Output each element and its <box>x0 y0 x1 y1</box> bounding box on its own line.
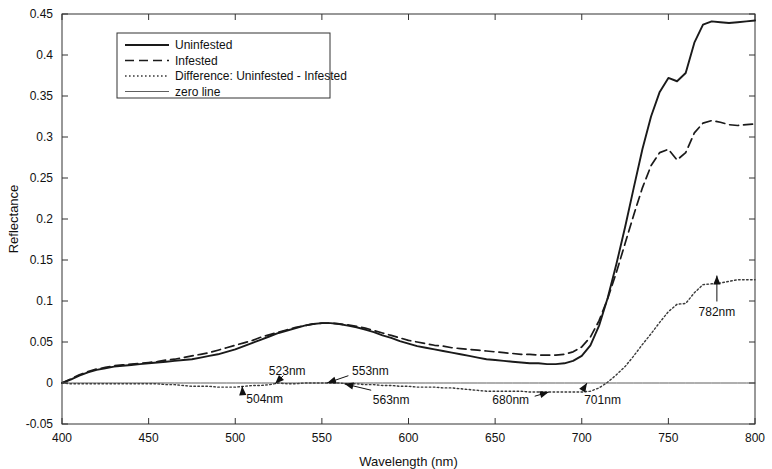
annotation-label: 680nm <box>492 393 529 407</box>
chart-canvas: 400450500550600650700750800 -0.0500.050.… <box>0 0 772 469</box>
y-axis-title: Reflectance <box>6 185 21 254</box>
y-tick-label: 0.1 <box>36 294 53 308</box>
annotation-label: 701nm <box>584 393 621 407</box>
y-tick-label: 0.35 <box>30 89 54 103</box>
y-tick-label: -0.05 <box>26 417 54 431</box>
legend-label: zero line <box>175 85 221 99</box>
legend-box: UninfestedInfestedDifference: Uninfested… <box>117 33 347 99</box>
legend-label: Infested <box>175 54 218 68</box>
annotation-arrow-head <box>539 391 549 398</box>
annotation-group: 504nm523nm553nm563nm680nm701nm782nm <box>239 276 735 408</box>
y-tick-label: 0.45 <box>30 7 54 21</box>
x-tick-label: 500 <box>225 431 245 445</box>
x-tick-label: 450 <box>139 431 159 445</box>
annotation-arrow-head <box>713 276 720 285</box>
legend-label: Difference: Uninfested - Infested <box>175 69 347 83</box>
spectral-reflectance-figure: 400450500550600650700750800 -0.0500.050.… <box>0 0 772 469</box>
annotation-label: 563nm <box>373 393 410 407</box>
annotation-label: 553nm <box>352 364 389 378</box>
annotation-label: 523nm <box>269 364 306 378</box>
x-tick-label: 400 <box>52 431 72 445</box>
y-tick-label: 0.4 <box>36 48 53 62</box>
annotation-arrow-head <box>327 377 337 384</box>
x-tick-label: 600 <box>398 431 418 445</box>
y-tick-label: 0.3 <box>36 130 53 144</box>
series-line <box>62 280 755 392</box>
x-tick-label: 550 <box>312 431 332 445</box>
annotation-arrow-head <box>239 386 246 395</box>
x-tick-label: 800 <box>745 431 765 445</box>
x-tick-label: 650 <box>485 431 505 445</box>
annotation-label: 782nm <box>699 305 736 319</box>
legend-label: Uninfested <box>175 38 232 52</box>
x-tick-label: 750 <box>658 431 678 445</box>
y-tick-label: 0.05 <box>30 335 54 349</box>
y-tick-label: 0.15 <box>30 253 54 267</box>
y-tick-label: 0.25 <box>30 171 54 185</box>
x-tick-label: 700 <box>572 431 592 445</box>
y-tick-label: 0.2 <box>36 212 53 226</box>
annotation-label: 504nm <box>246 392 283 406</box>
y-tick-label: 0 <box>46 376 53 390</box>
x-axis-title: Wavelength (nm) <box>359 454 458 469</box>
